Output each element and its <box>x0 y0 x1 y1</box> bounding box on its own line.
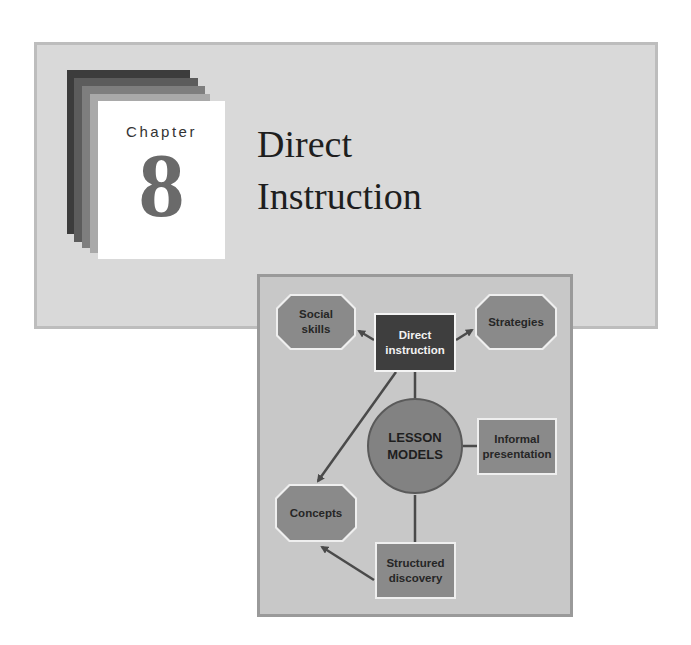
node-structured-discovery-line-2: discovery <box>386 571 444 586</box>
node-structured-discovery-line-1: Structured <box>386 556 444 571</box>
node-concepts-label: Concepts <box>290 506 342 521</box>
node-informal-presentation-line-1: Informal <box>482 432 551 447</box>
node-social-skills-line-1: Social <box>299 307 333 322</box>
node-direct-instruction: Direct instruction <box>374 313 456 372</box>
node-informal-presentation-line-2: presentation <box>482 447 551 462</box>
lesson-models-circle: LESSON MODELS <box>367 398 463 494</box>
node-social-skills: Social skills <box>276 294 356 350</box>
chapter-title: Direct Instruction <box>257 118 422 222</box>
lesson-models-line-1: LESSON <box>387 429 443 446</box>
node-structured-discovery: Structured discovery <box>375 542 456 599</box>
chapter-title-line-2: Instruction <box>257 170 422 222</box>
node-direct-instruction-line-1: Direct <box>385 328 444 343</box>
chapter-page-card: Chapter 8 <box>98 101 225 259</box>
node-informal-presentation: Informal presentation <box>477 418 557 475</box>
lesson-models-line-2: MODELS <box>387 446 443 463</box>
node-strategies-label: Strategies <box>488 315 544 330</box>
node-strategies: Strategies <box>475 294 557 350</box>
node-social-skills-line-2: skills <box>299 322 333 337</box>
chapter-number: 8 <box>98 139 225 231</box>
node-direct-instruction-line-2: instruction <box>385 343 444 358</box>
node-concepts: Concepts <box>275 484 357 542</box>
chapter-title-line-1: Direct <box>257 118 422 170</box>
